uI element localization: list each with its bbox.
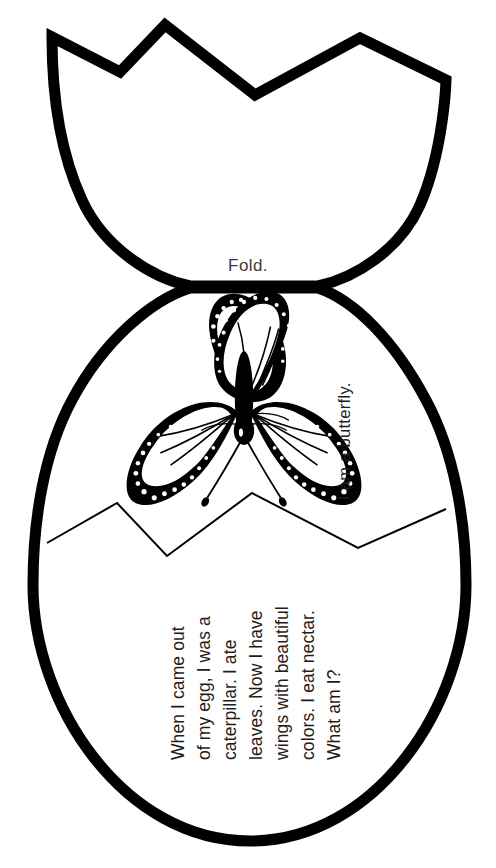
butterfly-body-highlight [239,428,243,436]
riddle-line: colors. I eat nectar. [300,610,318,760]
riddle-line: wings with beautiful [274,606,292,760]
riddle-line: What am I? [326,670,344,760]
top-eggshell-shape [52,25,446,286]
fold-label: Fold. [0,256,496,276]
riddle-line: When I came out [170,626,188,760]
butterfly-thorax [234,416,254,445]
top-shell-outline [52,25,446,286]
riddle-line: of my egg, I was a [196,616,214,760]
riddle-line: caterpillar. I ate [222,640,240,760]
riddle-text-block: When I came outof my egg, I was acaterpi… [170,560,360,770]
printable-page: Fold. I am a butterfly. When I came outo… [0,0,496,868]
riddle-line: leaves. Now I have [248,610,266,760]
answer-text: I am a butterfly. [336,382,353,500]
